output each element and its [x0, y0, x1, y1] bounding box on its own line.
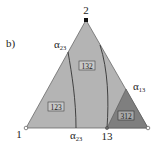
alpha-13-right-label: α13 [133, 80, 145, 93]
alpha-23-bottom-label: α23 [70, 129, 82, 142]
region-123-label: 123 [50, 103, 62, 112]
panel-label: b) [6, 37, 16, 50]
vertex-13-label: 13 [102, 130, 114, 142]
vertex-1-label: 1 [16, 128, 22, 140]
vertex-2-marker [84, 18, 88, 22]
region-132-label: 132 [81, 62, 93, 71]
ternary-diagram: 132 123 312 2 1 13 b) α23 α23 α13 [0, 0, 153, 144]
alpha-23-left-label: α23 [54, 38, 66, 51]
vertex-1-marker [24, 126, 28, 130]
vertex-3-marker [146, 126, 150, 130]
vertex-2-label: 2 [83, 4, 89, 16]
region-312-label: 312 [120, 112, 132, 121]
